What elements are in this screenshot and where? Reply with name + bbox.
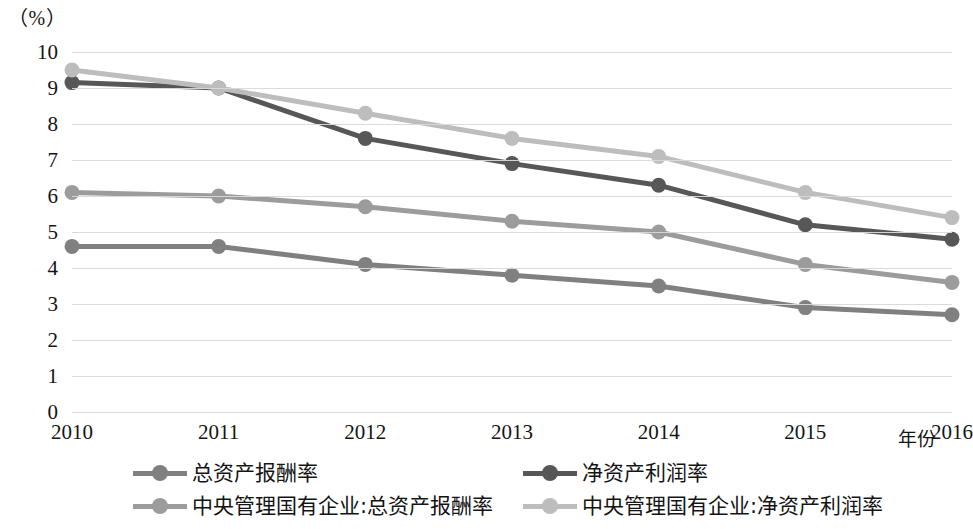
series-3 [65, 63, 960, 226]
gridline [72, 340, 952, 341]
data-point-marker [651, 279, 666, 294]
x-axis-tick-label: 2012 [344, 420, 386, 445]
x-axis-tick-label: 2010 [51, 420, 93, 445]
legend-swatch-icon-0 [133, 462, 187, 484]
data-point-marker [358, 106, 373, 121]
legend-swatch-icon-3 [523, 495, 577, 517]
legend-label-2: 中央管理国有企业:总资产报酬率 [192, 496, 493, 517]
gridline [72, 196, 952, 197]
data-point-marker [798, 217, 813, 232]
data-point-marker [358, 257, 373, 272]
legend-swatch-icon-2 [133, 495, 187, 517]
legend-label-0: 总资产报酬率 [192, 463, 318, 484]
data-point-marker [798, 300, 813, 315]
gridline [72, 52, 952, 53]
x-axis-tick-label: 2014 [638, 420, 680, 445]
data-point-marker [945, 232, 960, 247]
gridline [72, 412, 952, 413]
x-axis: 2010201120122013201420152016 [72, 420, 952, 450]
x-axis-tick-label: 2013 [491, 420, 533, 445]
x-axis-tick-label: 2016 [931, 420, 973, 445]
data-point-marker [505, 131, 520, 146]
data-point-marker [505, 268, 520, 283]
legend-item-2[interactable]: 中央管理国有企业:总资产报酬率 [133, 495, 493, 517]
gridline [72, 88, 952, 89]
legend-swatch-icon-1 [523, 462, 577, 484]
data-point-marker [505, 214, 520, 229]
y-axis-tick-label: 4 [48, 258, 59, 279]
data-point-marker [651, 178, 666, 193]
legend-row: 总资产报酬率 净资产利润率 [0, 462, 971, 494]
legend-label-3: 中央管理国有企业:净资产利润率 [582, 496, 883, 517]
y-axis-tick-label: 10 [37, 42, 58, 63]
data-point-marker [65, 239, 80, 254]
data-point-marker [798, 185, 813, 200]
data-point-marker [358, 131, 373, 146]
legend-label-1: 净资产利润率 [582, 463, 708, 484]
data-point-marker [651, 149, 666, 164]
series-0 [65, 239, 960, 322]
chart-legend: 总资产报酬率 净资产利润率 中央管理国有企业:总资产报酬率 中央管理国有企 [0, 462, 971, 528]
gridline [72, 304, 952, 305]
gridline [72, 268, 952, 269]
data-point-marker [945, 275, 960, 290]
y-axis-tick-label: 6 [48, 186, 59, 207]
data-point-marker [945, 307, 960, 322]
gridline [72, 232, 952, 233]
y-axis-tick-label: 5 [48, 222, 59, 243]
data-point-marker [798, 257, 813, 272]
y-axis-tick-label: 9 [48, 78, 59, 99]
gridline [72, 376, 952, 377]
y-axis-tick-label: 1 [48, 366, 59, 387]
gridline [72, 160, 952, 161]
legend-item-0[interactable]: 总资产报酬率 [133, 462, 318, 484]
data-point-marker [505, 156, 520, 171]
data-point-marker [358, 199, 373, 214]
data-point-marker [65, 185, 80, 200]
legend-row: 中央管理国有企业:总资产报酬率 中央管理国有企业:净资产利润率 [0, 495, 971, 527]
y-axis-unit-label: （%） [8, 2, 66, 31]
y-axis-tick-label: 7 [48, 150, 59, 171]
data-point-marker [945, 210, 960, 225]
legend-item-1[interactable]: 净资产利润率 [523, 462, 708, 484]
plot-area: 012345678910 [72, 52, 952, 412]
gridline [72, 124, 952, 125]
x-axis-tick-label: 2011 [198, 420, 239, 445]
legend-item-3[interactable]: 中央管理国有企业:净资产利润率 [523, 495, 883, 517]
y-axis-tick-label: 2 [48, 330, 59, 351]
y-axis-tick-label: 8 [48, 114, 59, 135]
x-axis-tick-label: 2015 [784, 420, 826, 445]
y-axis-tick-label: 3 [48, 294, 59, 315]
data-point-marker [211, 239, 226, 254]
data-point-marker [65, 63, 80, 78]
x-axis-title: 年份 [898, 424, 936, 451]
